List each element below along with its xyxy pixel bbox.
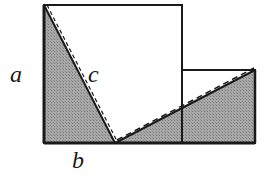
label-c: c <box>88 62 99 86</box>
label-b: b <box>72 148 84 172</box>
label-a: a <box>10 62 22 86</box>
diagram-canvas <box>0 0 268 178</box>
